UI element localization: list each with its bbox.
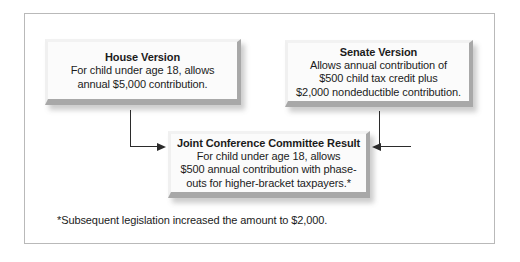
connector-senate-vertical <box>379 111 380 147</box>
connector-house-horizontal <box>130 146 158 147</box>
box-joint-conference-result: Joint Conference Committee Result For ch… <box>168 131 370 198</box>
box-house-version-title: House Version <box>53 50 232 64</box>
box-house-version: House Version For child under age 18, al… <box>45 39 241 105</box>
box-senate-version-body: Allows annual contribution of $500 child… <box>293 59 464 100</box>
box-joint-conference-result-title: Joint Conference Committee Result <box>176 136 361 150</box>
footnote-text: *Subsequent legislation increased the am… <box>57 213 327 227</box>
box-joint-conference-result-body: For child under age 18, allows $500 annu… <box>176 150 361 191</box>
connector-house-vertical <box>130 110 131 147</box>
arrow-right-icon <box>157 143 166 151</box>
box-joint-conference-result-content: Joint Conference Committee Result For ch… <box>171 136 366 191</box>
diagram-canvas: House Version For child under age 18, al… <box>0 0 520 262</box>
box-house-version-body: For child under age 18, allows annual $5… <box>53 64 232 91</box>
box-house-version-content: House Version For child under age 18, al… <box>48 50 237 91</box>
box-senate-version: Senate Version Allows annual contributio… <box>285 40 473 107</box>
arrow-left-icon <box>372 143 381 151</box>
box-senate-version-content: Senate Version Allows annual contributio… <box>288 45 469 100</box>
box-senate-version-title: Senate Version <box>293 45 464 59</box>
connector-senate-horizontal <box>381 146 411 147</box>
